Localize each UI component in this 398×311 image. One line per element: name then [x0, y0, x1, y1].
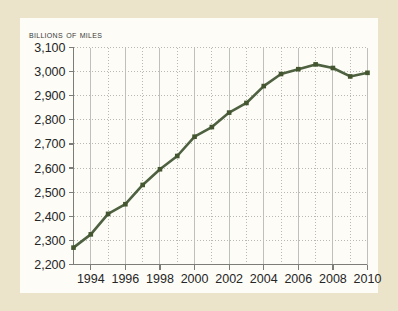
- x-axis-ticks: [91, 265, 368, 270]
- horizontal-gridlines: [74, 72, 368, 241]
- y-axis-ticks: [69, 48, 74, 265]
- svg-text:2,900: 2,900: [34, 89, 65, 103]
- x-axis-tick-labels: 199419961998200020022004200620082010: [77, 272, 382, 286]
- svg-text:2,600: 2,600: [34, 162, 65, 176]
- svg-text:2,500: 2,500: [34, 186, 65, 200]
- svg-text:2000: 2000: [181, 272, 209, 286]
- data-line-series: [74, 64, 368, 247]
- svg-text:1998: 1998: [146, 272, 174, 286]
- svg-text:2,300: 2,300: [34, 234, 65, 248]
- svg-text:2,400: 2,400: [34, 210, 65, 224]
- vertical-gridlines: [91, 48, 350, 265]
- svg-text:2006: 2006: [284, 272, 312, 286]
- svg-text:2002: 2002: [215, 272, 243, 286]
- y-axis-tick-labels: 3,1003,0002,9002,8002,7002,6002,5002,400…: [34, 41, 65, 272]
- svg-text:3,000: 3,000: [34, 65, 65, 79]
- svg-text:2,200: 2,200: [34, 258, 65, 272]
- chart-page: Billions of Miles 3,1003,0002,9002,8002,…: [0, 0, 398, 311]
- chart-axes: [74, 48, 368, 265]
- svg-text:1994: 1994: [77, 272, 105, 286]
- svg-text:2008: 2008: [319, 272, 347, 286]
- svg-text:2,700: 2,700: [34, 137, 65, 151]
- line-chart-svg: 3,1003,0002,9002,8002,7002,6002,5002,400…: [0, 0, 398, 311]
- svg-text:2010: 2010: [354, 272, 382, 286]
- svg-text:2,800: 2,800: [34, 113, 65, 127]
- svg-text:1996: 1996: [111, 272, 139, 286]
- data-point-markers: [71, 62, 370, 250]
- svg-text:3,100: 3,100: [34, 41, 65, 55]
- svg-text:2004: 2004: [250, 272, 278, 286]
- chart-plot-area: 3,1003,0002,9002,8002,7002,6002,5002,400…: [0, 0, 398, 311]
